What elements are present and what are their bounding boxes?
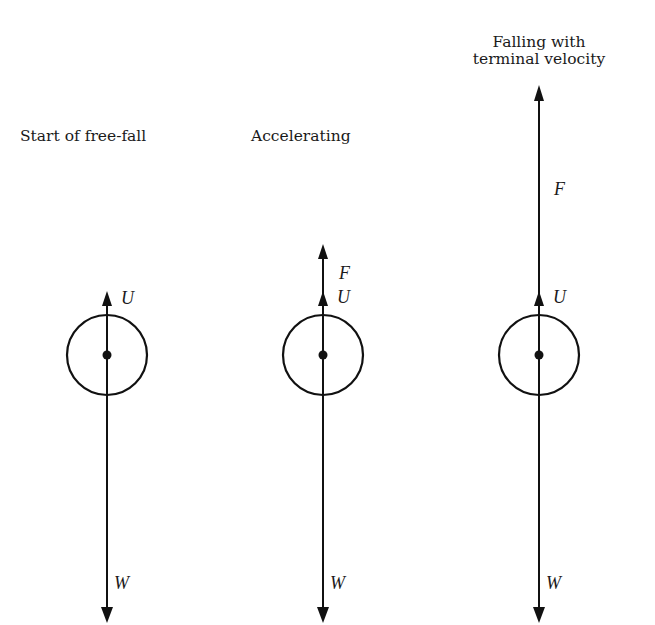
label-upthrust-terminal: U <box>553 288 566 306</box>
weight-arrowhead-icon <box>317 607 329 623</box>
label-drag-accelerating: F <box>339 264 350 282</box>
drag-arrowhead-icon <box>318 244 328 259</box>
panel-accelerating <box>283 244 363 623</box>
force-arrows-canvas <box>0 0 655 625</box>
label-weight-accelerating: W <box>330 574 345 592</box>
drag-arrowhead-icon <box>534 85 544 101</box>
weight-arrowhead-icon <box>101 607 113 623</box>
label-upthrust-start: U <box>121 289 134 307</box>
free-fall-diagram: Start of free-fall Accelerating Falling … <box>0 0 655 625</box>
label-upthrust-accelerating: U <box>337 288 350 306</box>
label-weight-start: W <box>114 574 129 592</box>
weight-arrowhead-icon <box>533 607 545 623</box>
label-weight-terminal: W <box>546 574 561 592</box>
upthrust-arrowhead-icon <box>318 291 328 306</box>
panel-terminal-velocity <box>499 85 579 623</box>
upthrust-arrowhead-icon <box>102 291 112 306</box>
upthrust-arrowhead-icon <box>534 291 544 306</box>
panel-start-of-free-fall <box>67 291 147 623</box>
label-drag-terminal: F <box>554 180 565 198</box>
